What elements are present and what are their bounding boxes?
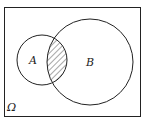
set-b-label: B [85,56,94,69]
set-a-label: A [28,54,37,67]
universe-label: Ω [6,101,16,114]
venn-diagram: A B Ω [0,0,146,124]
universe-frame [5,8,141,117]
